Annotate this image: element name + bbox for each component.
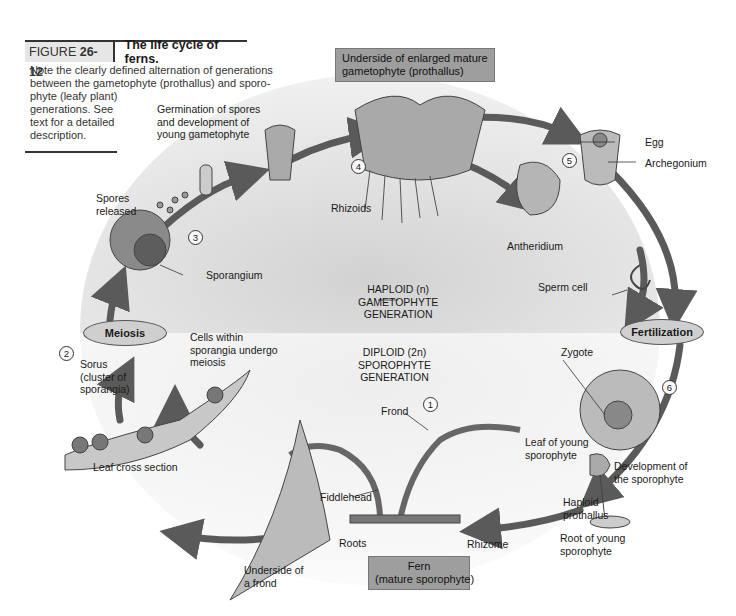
egg-label: Egg xyxy=(645,136,664,149)
caption-rule xyxy=(25,151,117,153)
root-young-sporophyte-label: Root of young sporophyte xyxy=(560,532,625,557)
frond-label: Frond xyxy=(381,405,408,418)
archegonium-label: Archegonium xyxy=(645,157,707,170)
prothallus-illustration xyxy=(355,96,485,180)
leaf-cross-section-label: Leaf cross section xyxy=(93,461,178,474)
sperm-cell-label: Sperm cell xyxy=(538,281,588,294)
cells-meiosis-label: Cells within sporangia undergo meiosis xyxy=(190,331,278,369)
development-sporophyte-label: Development of the sporophyte xyxy=(614,460,688,485)
caption-line: Note the clearly defined alternation of … xyxy=(30,64,273,77)
sporangium-label: Sporangium xyxy=(206,269,263,282)
haploid-generation-label: HAPLOID (n) GAMETOPHYTE GENERATION xyxy=(358,283,438,321)
diploid-generation-label: DIPLOID (2n) SPOROPHYTE GENERATION xyxy=(358,346,431,384)
fern-title-box: Fern (mature sporophyte) xyxy=(368,556,470,590)
step-3-marker: 3 xyxy=(188,230,203,245)
fertilization-oval: Fertilization xyxy=(620,319,704,345)
leaf-young-sporophyte-label: Leaf of young sporophyte xyxy=(525,436,589,461)
step-2-marker: 2 xyxy=(59,346,74,361)
step-4-marker: 4 xyxy=(351,159,366,174)
figure-label-text: FIGURE xyxy=(29,45,76,59)
meiosis-oval: Meiosis xyxy=(83,320,167,346)
rhizome-label: Rhizome xyxy=(467,538,508,551)
germination-label: Germination of spores and development of… xyxy=(157,103,260,141)
haploid-prothallus-label: Haploid prothallus xyxy=(563,496,609,521)
caption-line: between the gametophyte (prothallus) and… xyxy=(30,77,273,90)
figure-caption-header: FIGURE 26-12 The life cycle of ferns. xyxy=(25,40,247,62)
figure-title: The life cycle of ferns. xyxy=(115,38,247,66)
step-6-marker: 6 xyxy=(662,380,677,395)
zygote-label: Zygote xyxy=(561,346,593,359)
gametophyte-title-box: Underside of enlarged mature gametophyte… xyxy=(335,48,495,82)
step-5-marker: 5 xyxy=(562,153,577,168)
antheridium-label: Antheridium xyxy=(507,240,563,253)
fiddlehead-label: Fiddlehead xyxy=(320,491,372,504)
step-1-marker: 1 xyxy=(423,397,438,412)
roots-label: Roots xyxy=(339,537,366,550)
spores-released-label: Spores released xyxy=(96,192,136,217)
underside-frond-label: Underside of a frond xyxy=(244,564,304,589)
caption-line: phyte (leafy plant) xyxy=(30,90,273,103)
rhizoids-label: Rhizoids xyxy=(331,202,371,215)
figure-label: FIGURE 26-12 xyxy=(25,42,113,62)
sorus-label: Sorus (cluster of sporangia) xyxy=(80,358,130,396)
